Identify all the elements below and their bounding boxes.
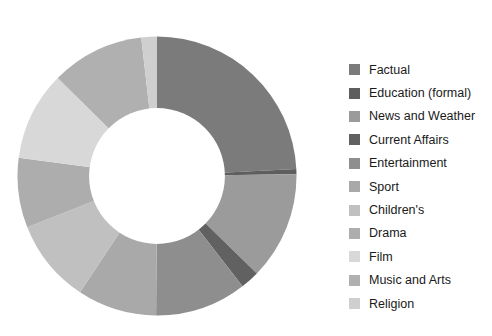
chart-legend: FactualEducation (formal)News and Weathe…: [349, 58, 489, 315]
legend-swatch-icon: [349, 275, 360, 286]
legend-item[interactable]: Education (formal): [349, 81, 489, 104]
legend-swatch-icon: [349, 64, 360, 75]
legend-item[interactable]: Film: [349, 245, 489, 268]
legend-item[interactable]: News and Weather: [349, 105, 489, 128]
legend-item-label: Entertainment: [369, 156, 447, 170]
legend-item[interactable]: Drama: [349, 222, 489, 245]
legend-swatch-icon: [349, 298, 360, 309]
legend-swatch-icon: [349, 134, 360, 145]
legend-item[interactable]: Sport: [349, 175, 489, 198]
legend-item-label: Current Affairs: [369, 133, 449, 147]
legend-item-label: Drama: [369, 226, 407, 240]
chart-figure: FactualEducation (formal)News and Weathe…: [0, 0, 492, 336]
legend-item-label: Film: [369, 250, 393, 264]
legend-swatch-icon: [349, 181, 360, 192]
legend-item-label: Music and Arts: [369, 273, 451, 287]
legend-swatch-icon: [349, 88, 360, 99]
legend-item[interactable]: Entertainment: [349, 152, 489, 175]
legend-swatch-icon: [349, 158, 360, 169]
legend-swatch-icon: [349, 205, 360, 216]
legend-item[interactable]: Children's: [349, 198, 489, 221]
legend-swatch-icon: [349, 111, 360, 122]
legend-item[interactable]: Current Affairs: [349, 128, 489, 151]
legend-swatch-icon: [349, 251, 360, 262]
legend-item-label: News and Weather: [369, 109, 475, 123]
legend-item-label: Factual: [369, 63, 410, 77]
legend-item-label: Education (formal): [369, 86, 471, 100]
legend-item-label: Children's: [369, 203, 424, 217]
legend-item-label: Sport: [369, 180, 399, 194]
legend-item[interactable]: Factual: [349, 58, 489, 81]
legend-swatch-icon: [349, 228, 360, 239]
legend-item[interactable]: Religion: [349, 292, 489, 315]
donut-chart-svg: [17, 36, 297, 316]
legend-item-label: Religion: [369, 297, 414, 311]
legend-item[interactable]: Music and Arts: [349, 269, 489, 292]
donut-center-hole: [89, 108, 225, 244]
donut-chart: [17, 36, 297, 316]
